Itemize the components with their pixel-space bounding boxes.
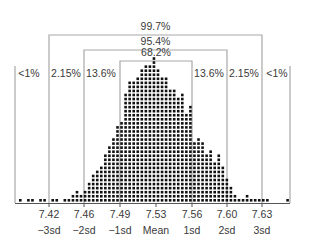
tick-value-label: 7.42 <box>39 208 60 220</box>
region-label: <1% <box>266 67 287 79</box>
region-label: 13.6% <box>194 67 224 79</box>
bracket-label: 99.7% <box>141 20 171 32</box>
bracket-label: 68.2% <box>141 46 171 58</box>
tick-value-label: 7.53 <box>146 208 167 220</box>
tick-sd-label: −2sd <box>72 224 95 236</box>
tick-value-label: 7.49 <box>110 208 131 220</box>
x-axis <box>15 203 290 207</box>
region-label: 2.15% <box>51 67 81 79</box>
sd-brackets <box>15 35 290 203</box>
tick-sd-label: −1sd <box>108 224 131 236</box>
tick-sd-label: 3sd <box>254 224 271 236</box>
region-label: 2.15% <box>229 67 259 79</box>
tick-sd-label: −3sd <box>37 224 60 236</box>
normal-distribution-chart: 99.7%95.4%68.2%<1%2.15%13.6%13.6%2.15%<1… <box>0 0 313 247</box>
tick-sd-label: 2sd <box>219 224 236 236</box>
tick-sd-label: Mean <box>143 224 169 236</box>
tick-sd-label: 1sd <box>184 224 201 236</box>
bracket-99-7pct <box>49 35 262 203</box>
tick-value-label: 7.46 <box>74 208 95 220</box>
tick-value-label: 7.63 <box>252 208 273 220</box>
tick-value-label: 7.60 <box>217 208 238 220</box>
region-label: 13.6% <box>86 67 116 79</box>
region-label: <1% <box>18 67 39 79</box>
tick-value-label: 7.56 <box>182 208 203 220</box>
